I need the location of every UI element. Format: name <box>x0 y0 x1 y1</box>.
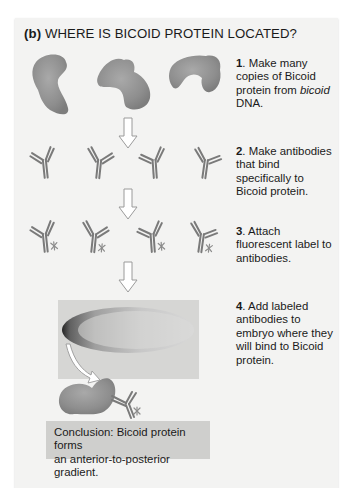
bound-labeled-antibody-icon <box>112 392 140 418</box>
step-number: 4 <box>236 300 242 312</box>
bound-protein-icon <box>59 378 115 414</box>
down-arrow-icon <box>119 189 137 219</box>
conclusion-line-1: Conclusion: Bicoid protein forms <box>54 426 210 453</box>
antibody-icon <box>139 147 166 179</box>
labeled-antibody-icon <box>80 221 109 254</box>
step-2-text: 2. Make antibodies that bind specificall… <box>236 145 336 199</box>
down-arrow-icon <box>119 118 137 148</box>
labeled-antibody-icon <box>137 221 165 253</box>
labeled-antibody-icon <box>30 221 58 253</box>
step-number: 1 <box>236 57 242 69</box>
antibody-icon <box>191 147 222 179</box>
antibody-icon <box>30 147 57 179</box>
protein-3-icon <box>169 55 221 92</box>
conclusion-line-2: an anterior-to-posterior gradient. <box>54 453 210 480</box>
step-number: 3 <box>236 225 242 237</box>
labeled-antibody-icon <box>187 221 218 253</box>
down-arrow-icon <box>119 262 137 292</box>
protein-1-icon <box>32 55 68 115</box>
step-4-text: 4. Add labeled antibodies to embryo wher… <box>236 300 336 367</box>
protein-2-icon <box>97 59 150 110</box>
step-1-text: 1. Make many copies of Bicoid protein fr… <box>236 57 336 111</box>
step-3-text: 3. Attach fluorescent label to antibodie… <box>236 225 336 265</box>
step-number: 2 <box>236 145 242 157</box>
conclusion-box: Conclusion: Bicoid protein forms an ante… <box>46 421 210 459</box>
antibody-icon <box>85 147 114 180</box>
